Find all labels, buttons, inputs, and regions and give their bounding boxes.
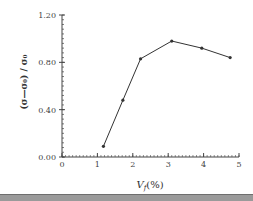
data-point bbox=[170, 39, 173, 42]
x-tick-label: 1 bbox=[95, 160, 100, 169]
x-tick-label: 4 bbox=[201, 160, 206, 169]
data-point bbox=[229, 56, 232, 59]
data-point bbox=[139, 57, 142, 60]
x-axis-label: Vf(%) bbox=[136, 179, 163, 192]
y-tick-label: 0.00 bbox=[38, 153, 56, 162]
y-axis-label: (σ—σ₀) / σ₀ bbox=[19, 55, 29, 110]
y-axis: 0.000.400.801.20 bbox=[38, 11, 65, 162]
y-tick-label: 1.20 bbox=[38, 11, 56, 20]
x-tick-label: 0 bbox=[59, 160, 64, 169]
series-line bbox=[103, 41, 230, 146]
x-tick-label: 5 bbox=[236, 160, 241, 169]
data-point bbox=[102, 145, 105, 148]
y-tick-label: 0.40 bbox=[38, 106, 56, 115]
x-tick-label: 3 bbox=[166, 160, 171, 169]
x-axis: 012345 bbox=[59, 153, 241, 169]
data-point bbox=[200, 47, 203, 50]
data-series bbox=[102, 39, 232, 148]
line-chart: 0.000.400.801.20 012345 (σ—σ₀) / σ₀ Vf(%… bbox=[0, 0, 253, 201]
x-tick-label: 2 bbox=[130, 160, 135, 169]
data-point bbox=[121, 99, 124, 102]
bottom-border bbox=[0, 194, 253, 201]
y-tick-label: 0.80 bbox=[38, 58, 56, 67]
